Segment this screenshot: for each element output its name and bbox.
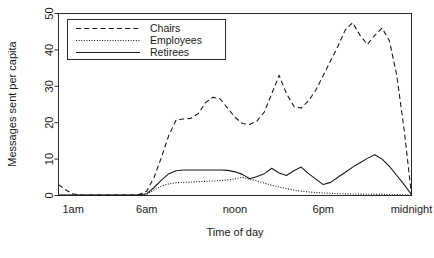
x-tick-label: noon: [223, 203, 247, 215]
series-line-retirees: [59, 155, 412, 195]
legend-label-chairs: Chairs: [150, 22, 180, 34]
line-chart: 01020304050 1am6amnoon6pmmidnight Time o…: [0, 0, 434, 258]
y-tick-label: 30: [43, 80, 55, 92]
y-tick-label: 40: [43, 44, 55, 56]
y-tick-label: 0: [43, 192, 55, 198]
x-tick-label: 6pm: [313, 203, 334, 215]
legend-label-retirees: Retirees: [150, 46, 189, 58]
chart-figure: 01020304050 1am6amnoon6pmmidnight Time o…: [0, 0, 434, 258]
y-axis-ticks: [55, 14, 59, 196]
legend-label-employees: Employees: [150, 34, 202, 46]
y-tick-label: 50: [43, 7, 55, 19]
x-axis-title: Time of day: [206, 226, 264, 238]
x-tick-label: midnight: [391, 203, 433, 215]
y-tick-label: 20: [43, 117, 55, 129]
x-axis-tick-labels: 1am6amnoon6pmmidnight: [63, 203, 433, 215]
series-line-employees: [59, 177, 412, 195]
y-axis-title: Messages sent per capita: [6, 40, 18, 166]
y-axis-tick-labels: 01020304050: [43, 7, 55, 198]
legend: ChairsEmployeesRetirees: [68, 20, 226, 60]
x-tick-label: 6am: [136, 203, 157, 215]
x-tick-label: 1am: [63, 203, 84, 215]
y-tick-label: 10: [43, 153, 55, 165]
